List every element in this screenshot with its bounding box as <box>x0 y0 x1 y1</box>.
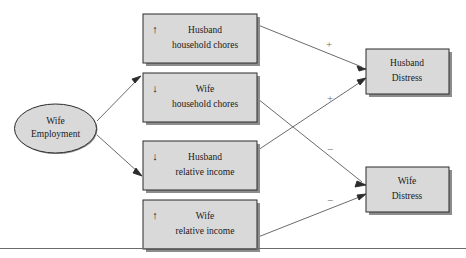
edge-wife-chores-to-wife-distress <box>258 99 362 182</box>
edge-sign-group: + + − − <box>326 38 333 206</box>
wife-household-chores-line1: Wife <box>196 84 215 94</box>
wife-relative-income-line1: Wife <box>196 211 215 221</box>
husband-household-chores-arrow-icon: ↑ <box>152 23 158 35</box>
husband-relative-income-box <box>143 141 257 190</box>
wife-employment-line2: Employment <box>31 129 80 139</box>
node-husband-household-chores[interactable]: ↑ Husband household chores <box>143 14 260 66</box>
edge-employment-to-wife-chores <box>97 79 138 121</box>
arrowhead-wife-income-to-wife-distress <box>357 194 366 200</box>
node-wife-relative-income[interactable]: ↑ Wife relative income <box>143 200 260 252</box>
diagram-canvas: Wife Employment ↑ Husband household chor… <box>0 0 466 258</box>
wife-distress-line2: Distress <box>392 191 423 201</box>
edge-group-outcomes <box>258 25 366 237</box>
edge-sign-husband-income: + <box>327 92 333 104</box>
arrowhead-employment-to-wife-chores <box>132 76 141 83</box>
arrowhead-wife-chores-to-wife-distress <box>355 181 366 187</box>
node-wife-household-chores[interactable]: ↓ Wife household chores <box>143 73 260 125</box>
edge-husband-chores-to-husband-distress <box>258 25 362 67</box>
husband-relative-income-line1: Husband <box>188 152 222 162</box>
wife-relative-income-box <box>143 200 257 249</box>
wife-relative-income-line2: relative income <box>176 226 235 236</box>
wife-household-chores-arrow-icon: ↓ <box>152 82 158 94</box>
husband-household-chores-line1: Husband <box>188 25 222 35</box>
wife-employment-line1: Wife <box>46 116 65 126</box>
wife-distress-line1: Wife <box>398 176 417 186</box>
husband-household-chores-box <box>143 14 257 63</box>
edge-wife-income-to-wife-distress <box>258 196 362 237</box>
husband-relative-income-arrow-icon: ↓ <box>152 150 158 162</box>
husband-household-chores-line2: household chores <box>172 40 239 50</box>
node-husband-relative-income[interactable]: ↓ Husband relative income <box>143 141 260 193</box>
edge-husband-income-to-husband-distress <box>258 81 362 150</box>
edge-group-source <box>97 76 142 176</box>
edge-sign-wife-chores: − <box>327 143 333 155</box>
edge-sign-husband-chores: + <box>326 38 332 50</box>
edge-employment-to-husband-income <box>97 135 138 172</box>
husband-relative-income-line2: relative income <box>176 167 235 177</box>
husband-distress-box <box>366 49 449 94</box>
wife-household-chores-box <box>143 73 257 122</box>
node-wife-employment[interactable]: Wife Employment <box>15 104 98 154</box>
husband-distress-line1: Husband <box>390 58 424 68</box>
path-diagram: Wife Employment ↑ Husband household chor… <box>0 0 466 258</box>
wife-relative-income-arrow-icon: ↑ <box>152 209 158 221</box>
edge-sign-wife-income: − <box>327 194 333 206</box>
node-wife-distress[interactable]: Wife Distress <box>366 167 452 215</box>
wife-distress-box <box>366 167 449 212</box>
node-husband-distress[interactable]: Husband Distress <box>366 49 452 97</box>
wife-household-chores-line2: household chores <box>172 99 239 109</box>
husband-distress-line2: Distress <box>392 73 423 83</box>
